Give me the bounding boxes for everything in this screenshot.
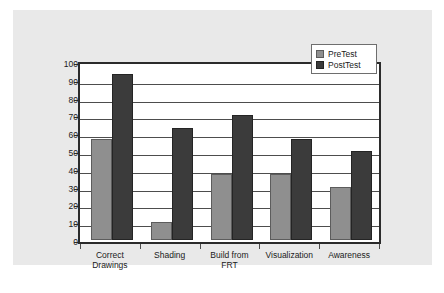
bar-pretest <box>211 174 232 240</box>
bars-container <box>82 66 377 240</box>
bar-posttest <box>232 115 253 240</box>
x-tick-mark <box>200 244 201 249</box>
x-category-label: Visualization <box>259 250 319 260</box>
bar-posttest <box>112 74 133 240</box>
legend-item-posttest: PostTest <box>316 59 372 70</box>
chart-legend: PreTest PostTest <box>311 44 377 74</box>
posttest-swatch-icon <box>316 61 324 69</box>
x-category-label: Shading <box>140 250 200 260</box>
x-category-label-line: Drawings <box>80 260 140 270</box>
legend-label-posttest: PostTest <box>328 60 361 70</box>
bar-pretest <box>270 174 291 240</box>
bar-posttest <box>351 151 372 240</box>
x-tick-mark <box>379 244 380 249</box>
x-category-label-line: FRT <box>200 260 260 270</box>
bar-posttest <box>291 139 312 240</box>
bar-posttest <box>172 128 193 240</box>
x-tick-mark <box>80 244 81 249</box>
x-category-label-line: Shading <box>140 250 200 260</box>
plot-area <box>78 62 381 244</box>
x-axis-ticks <box>78 244 381 249</box>
legend-item-pretest: PreTest <box>316 48 372 59</box>
bar-pretest <box>151 222 172 240</box>
x-category-label: Awareness <box>319 250 379 260</box>
x-category-label: Build fromFRT <box>200 250 260 270</box>
x-axis-labels: CorrectDrawingsShadingBuild fromFRTVisua… <box>78 250 381 276</box>
x-tick-mark <box>140 244 141 249</box>
x-tick-mark <box>319 244 320 249</box>
legend-label-pretest: PreTest <box>328 49 357 59</box>
x-category-label-line: Correct <box>80 250 140 260</box>
x-category-label-line: Build from <box>200 250 260 260</box>
pretest-swatch-icon <box>316 50 324 58</box>
x-category-label: CorrectDrawings <box>80 250 140 270</box>
bar-pretest <box>330 187 351 240</box>
chart-panel: 1009080706050403020100 CorrectDrawingsSh… <box>13 10 432 265</box>
bar-pretest <box>91 139 112 240</box>
x-category-label-line: Visualization <box>259 250 319 260</box>
x-tick-mark <box>259 244 260 249</box>
x-category-label-line: Awareness <box>319 250 379 260</box>
y-axis: 1009080706050403020100 <box>44 62 78 244</box>
